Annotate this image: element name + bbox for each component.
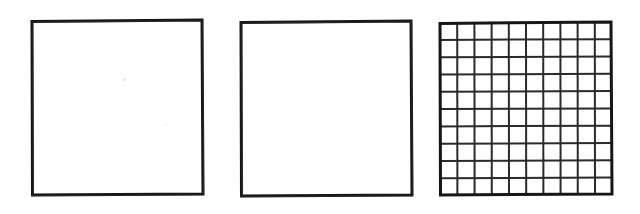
grid-hline-6: [441, 126, 612, 127]
grid-hline-9: [441, 178, 612, 179]
grid-hline-2: [441, 57, 612, 58]
grid-hline-3: [441, 74, 612, 75]
grid-hline-8: [441, 160, 612, 161]
grid-hline-4: [441, 91, 612, 92]
grid-hline-1: [441, 39, 612, 40]
figure-canvas: [0, 0, 640, 214]
shape-layer: [0, 0, 640, 214]
grid-hline-5: [441, 108, 612, 109]
grid-hline-7: [441, 143, 612, 144]
squares-drawing: [0, 0, 640, 214]
